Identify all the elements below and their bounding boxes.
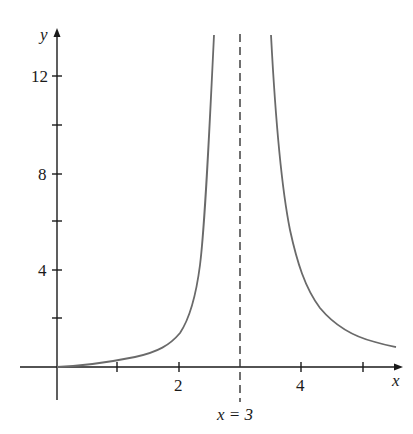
asymptote-label: x = 3: [217, 406, 253, 423]
asymptote-label-text: x = 3: [217, 405, 253, 424]
x-axis: [20, 362, 403, 372]
y-tick-label-8: 8: [38, 166, 47, 183]
x-tick-label-4: 4: [296, 377, 305, 394]
y-tick-label-12: 12: [31, 68, 48, 85]
x-axis-arrow-icon: [394, 364, 403, 371]
y-axis-label: y: [40, 26, 48, 43]
x-tick-label-2: 2: [174, 377, 183, 394]
chart-plot: [0, 0, 413, 434]
curve-right-branch: [271, 35, 396, 347]
y-axis-arrow-icon: [54, 28, 61, 37]
x-axis-label: x: [392, 372, 400, 389]
y-tick-label-4: 4: [38, 262, 47, 279]
curve-left-branch: [57, 35, 214, 367]
y-axis: [52, 28, 62, 400]
